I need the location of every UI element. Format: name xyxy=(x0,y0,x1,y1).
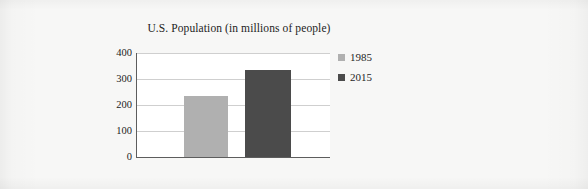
y-axis-tick-200: 200 xyxy=(88,100,132,111)
legend-swatch-2015-icon xyxy=(338,74,345,81)
legend-label-2015: 2015 xyxy=(350,72,372,83)
chart-legend: 1985 2015 xyxy=(338,47,408,87)
legend-label-1985: 1985 xyxy=(350,52,372,63)
y-axis-tick-300: 300 xyxy=(88,74,132,85)
bar-chart-figure: U.S. Population (in millions of people) … xyxy=(0,0,588,189)
legend-swatch-1985-icon xyxy=(338,54,345,61)
bar-1985[interactable] xyxy=(184,96,228,157)
bar-2015[interactable] xyxy=(245,70,291,157)
chart-title: U.S. Population (in millions of people) xyxy=(124,22,354,34)
bars-layer xyxy=(137,53,330,157)
legend-item-2015[interactable]: 2015 xyxy=(338,67,408,87)
y-axis-tick-100: 100 xyxy=(88,126,132,137)
y-axis-tick-400: 400 xyxy=(88,48,132,59)
y-axis-tick-labels: 400 300 200 100 0 xyxy=(86,53,132,158)
y-axis-tick-0: 0 xyxy=(88,152,132,163)
legend-item-1985[interactable]: 1985 xyxy=(338,47,408,67)
plot-area xyxy=(136,53,330,158)
